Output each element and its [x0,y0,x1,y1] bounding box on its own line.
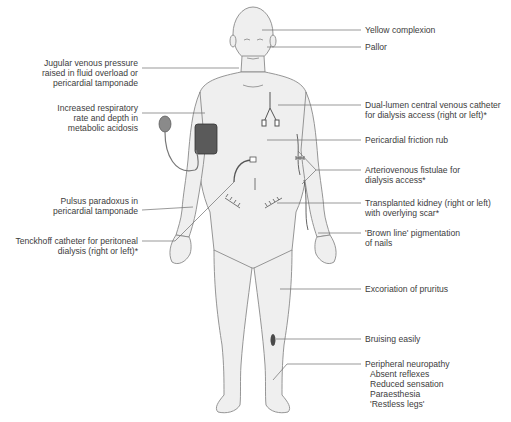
sub-item: Reduced sensation [365,379,450,389]
label-line: Tenckhoff catheter for peritoneal [15,236,138,246]
label-line: Transplanted kidney (right or left) [365,198,491,208]
label-line: raised in fluid overload or [42,68,138,78]
leg-viewer-right [254,250,292,413]
label-line: dialysis access* [365,175,426,185]
label-line: Yellow complexion [365,25,435,35]
label-line: Increased respiratory [57,103,138,113]
label-line: Pulsus paradoxus in [61,196,138,206]
sub-item: Absent reflexes [365,369,450,379]
label-jvp: Jugular venous pressure raised in fluid … [42,58,138,88]
label-pallor: Pallor [365,42,387,52]
label-line: metabolic acidosis [68,123,138,133]
label-transplanted-kidney: Transplanted kidney (right or left) with… [365,198,491,218]
label-respiratory: Increased respiratory rate and depth in … [57,103,138,133]
label-brown-line-nails: 'Brown line' pigmentation of nails [365,228,460,248]
bruise-icon [271,334,276,346]
label-line: Bruising easily [365,334,420,344]
label-tenckhoff: Tenckhoff catheter for peritoneal dialys… [15,236,138,256]
label-line: Excoriation of pruritus [365,284,448,294]
head [233,7,273,61]
label-line: rate and depth in [73,113,138,123]
sub-item: 'Restless legs' [365,399,450,409]
label-line: pericardial tamponade [53,78,138,88]
label-line: Pallor [365,42,387,52]
label-av-fistulae: Arteriovenous fistulae for dialysis acce… [365,165,460,185]
label-line: Pericardial friction rub [365,135,448,145]
label-line: of nails [365,238,392,248]
label-line: Dual-lumen central venous catheter [365,100,501,110]
label-peripheral-neuropathy: Peripheral neuropathy Absent reflexes Re… [365,359,450,409]
label-yellow-complexion: Yellow complexion [365,25,435,35]
label-pulsus-paradoxus: Pulsus paradoxus in pericardial tamponad… [53,196,138,216]
label-central-venous-catheter: Dual-lumen central venous catheter for d… [365,100,501,120]
label-pericardial-rub: Pericardial friction rub [365,135,448,145]
sub-item: Paraesthesia [365,389,450,399]
label-line: Jugular venous pressure [44,58,138,68]
label-bruising: Bruising easily [365,334,420,344]
label-line: for dialysis access (right or left)* [365,110,487,120]
leg-viewer-left [214,250,252,413]
label-line: with overlying scar* [365,208,439,218]
label-pruritus: Excoriation of pruritus [365,284,448,294]
label-line: Peripheral neuropathy [365,359,450,369]
label-line: 'Brown line' pigmentation [365,228,460,238]
label-line: dialysis (right or left)* [58,246,138,256]
torso [197,72,309,268]
label-line: Arteriovenous fistulae for [365,165,460,175]
label-line: pericardial tamponade [53,206,138,216]
arm-viewer-right [301,92,330,237]
